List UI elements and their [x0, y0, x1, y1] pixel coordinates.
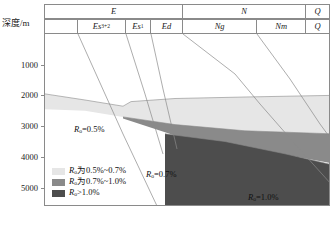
strat-formation-ed-3: Ed — [150, 19, 182, 34]
legend-swatch-0 — [52, 168, 65, 175]
legend-swatch-2 — [52, 190, 65, 197]
strat-system-q-2: Q — [305, 4, 330, 19]
depth-tick-label-2000: 2000 — [6, 91, 38, 100]
strat-formation-nm-5: Nm — [256, 19, 305, 34]
strat-formation-blank-0 — [44, 19, 77, 34]
strat-formation-q-6: Q — [305, 19, 330, 34]
boundary-Es1-line — [126, 34, 163, 154]
strat-system-n-1: N — [182, 4, 305, 19]
strat-formation-es-1: Es3+2 — [77, 19, 125, 34]
depth-tick-label-4000: 4000 — [6, 153, 38, 162]
annotation-ro-07: Ro=0.7% — [146, 170, 177, 180]
depth-tick-label-1000: 1000 — [6, 61, 38, 70]
legend-item-1: Ro为0.7%~1.0% — [52, 177, 126, 187]
legend-item-2: Ro>1.0% — [52, 188, 126, 198]
strat-formation-ng-4: Ng — [182, 19, 256, 34]
stratigraphy-header-table: ENQ Es3+2Es1EdNgNmQ — [44, 4, 330, 34]
depth-tick-label-3000: 3000 — [6, 122, 38, 131]
depth-axis-title: 深度/m — [2, 16, 30, 29]
legend-item-0: Ro为0.5%~0.7% — [52, 166, 126, 176]
figure-root: 深度/m ENQ Es3+2Es1EdNgNmQ 100020003000400… — [0, 0, 333, 225]
annotation-ro-10: Ro=1.0% — [248, 193, 279, 203]
annotation-ro-05: Ro=0.5% — [74, 125, 105, 135]
maturity-legend: Ro为0.5%~0.7%Ro为0.7%~1.0%Ro>1.0% — [52, 166, 126, 199]
legend-swatch-1 — [52, 179, 65, 186]
legend-label-1: Ro为0.7%~1.0% — [69, 177, 126, 187]
legend-label-0: Ro为0.5%~0.7% — [69, 166, 126, 176]
depth-tick-label-5000: 5000 — [6, 184, 38, 193]
strat-formation-es-2: Es1 — [125, 19, 150, 34]
stratigraphy-formation-row: Es3+2Es1EdNgNmQ — [44, 19, 330, 34]
strat-system-e-0: E — [44, 4, 182, 19]
stratigraphy-system-row: ENQ — [44, 4, 330, 19]
legend-label-2: Ro>1.0% — [69, 188, 100, 198]
